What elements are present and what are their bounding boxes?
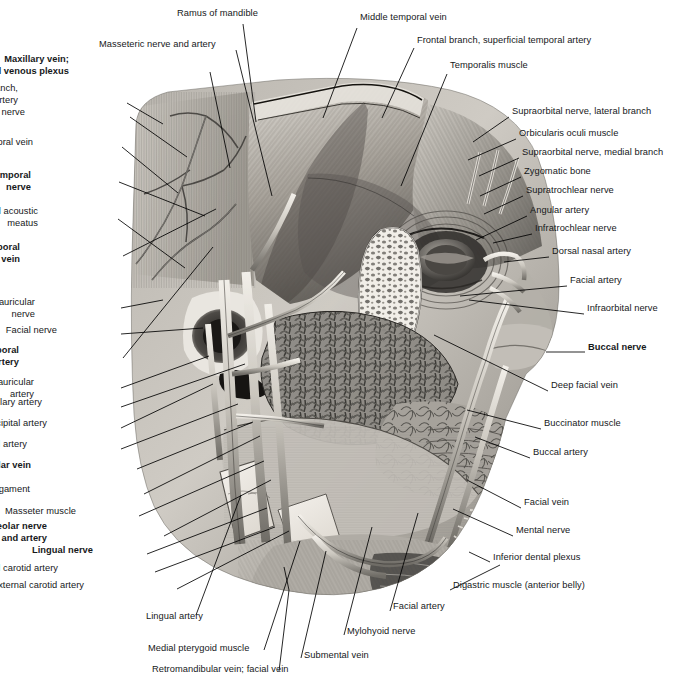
label-inferior-dental-plexus: Inferior dental plexus [493,552,580,564]
label-facial-artery-right: Facial artery [570,275,622,287]
label-external-carotid-artery-upper: External carotid artery [0,439,27,451]
label-sphenomandibular-ligament: Sphenomandibular ligament [0,484,30,496]
label-middle-temporal-vein-top: Middle temporal vein [360,12,447,24]
label-facial-nerve: Facial nerve [6,325,57,337]
label-parietal-branch-superficial-temporal-artery: Parietal branch, superficial temporal ar… [0,83,18,106]
label-masseter-muscle: Masseter muscle [5,506,76,518]
label-supratrochlear-nerve: Supratrochlear nerve [526,185,614,197]
label-deep-facial-vein: Deep facial vein [551,380,618,392]
label-infraorbital-nerve: Infraorbital nerve [587,303,658,315]
label-superficial-temporal-artery: Superficial temporal artery [0,345,19,368]
label-external-acoustic-meatus: External acoustic meatus [0,206,38,229]
label-internal-carotid-artery: Internal carotid artery [0,563,58,575]
label-posterior-auricular-nerve: Posterior auricular nerve [0,297,35,320]
label-retromandibular-vein-facial-vein: Retromandibular vein; facial vein [152,664,289,676]
label-facial-artery-bottom: Facial artery [393,601,445,613]
anatomical-plate: Ramus of mandibleMiddle temporal veinMas… [0,0,676,694]
label-lingual-nerve: Lingual nerve [32,545,93,557]
label-temporalis-muscle: Temporalis muscle [450,60,528,72]
label-submental-vein: Submental vein [304,650,369,662]
label-supraorbital-nerve-lateral-branch: Supraorbital nerve, lateral branch [512,106,651,118]
label-buccal-artery: Buccal artery [533,447,588,459]
label-auriculotemporal-nerve-bold: Auriculotemporal nerve [0,170,31,193]
label-supraorbital-nerve-medial-branch: Supraorbital nerve, medial branch [522,147,663,159]
label-external-carotid-artery-lower: External carotid artery [0,580,84,592]
label-digastric-muscle-anterior-belly: Digastric muscle (anterior belly) [453,580,585,592]
label-superficial-temporal-vein: Superficial temporal vein [0,242,20,265]
label-auriculotemporal-nerve-1: Auriculotemporal nerve [0,107,25,119]
label-zygomatic-bone: Zygomatic bone [524,166,591,178]
label-infratrochlear-nerve: Infratrochlear nerve [535,223,617,235]
label-masseteric-nerve-and-artery: Masseteric nerve and artery [99,39,216,51]
label-occipital-artery: Occipital artery [0,418,47,430]
label-medial-pterygoid-muscle: Medial pterygoid muscle [148,643,249,655]
label-orbicularis-oculi-muscle: Orbicularis oculi muscle [519,128,618,140]
label-mental-nerve: Mental nerve [516,525,570,537]
label-angular-artery: Angular artery [530,205,589,217]
anatomy-illustration [128,74,566,602]
label-middle-temporal-vein-left: Middle temporal vein [0,137,33,149]
label-dorsal-nasal-artery: Dorsal nasal artery [552,246,631,258]
label-maxillary-artery: Maxillary artery [0,397,42,409]
label-buccinator-muscle: Buccinator muscle [544,418,621,430]
label-lingual-artery: Lingual artery [146,611,203,623]
label-maxillary-vein-pterygoid-venous-plexus: Maxillary vein; pterygoid venous plexus [0,54,69,77]
label-facial-vein: Facial vein [524,497,569,509]
label-mylohyoid-nerve: Mylohyoid nerve [347,626,415,638]
label-buccal-nerve: Buccal nerve [588,342,646,354]
label-retromandibular-vein: Retromandibular vein [0,460,31,472]
label-frontal-branch-superficial-temporal-artery: Frontal branch, superficial temporal art… [417,35,591,47]
label-ramus-of-mandible: Ramus of mandible [177,8,258,20]
label-inferior-alveolar-nerve-and-artery: Inferior alveolar nerve and artery [0,521,47,544]
